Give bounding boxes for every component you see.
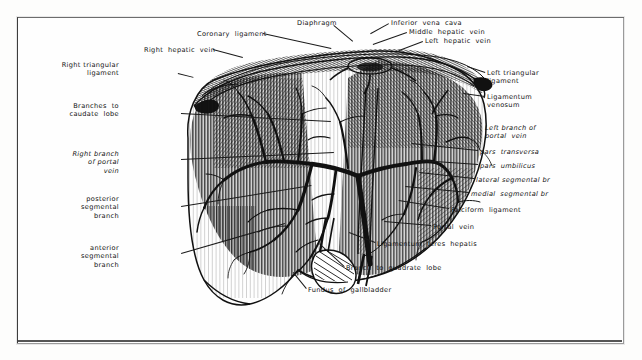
figure-page: Coronary ligamentDiaphragmInferior vena …	[0, 0, 642, 360]
label-left-hepatic-vein: Left hepatic vein	[425, 37, 491, 45]
label-medial-segmental-br: medial segmental br	[471, 190, 548, 198]
label-pars-umbilicus: pars umbilicus	[480, 162, 535, 170]
label-left-triangular-ligament: Left triangular ligament	[487, 69, 539, 86]
label-posterior-segmental-branch: posterior segmental branch	[81, 195, 119, 220]
label-middle-hepatic-vein: Middle hepatic vein	[409, 28, 485, 36]
label-coronary-ligament: Coronary ligament	[197, 30, 267, 38]
illustration-plate: Coronary ligamentDiaphragmInferior vena …	[17, 17, 624, 344]
label-ligamentum-venosum: Ligamentum venosum	[487, 93, 532, 110]
label-right-hepatic-vein: Right hepatic vein	[144, 46, 215, 54]
label-ligamentum-teres-hepatis: Ligamentum teres hepatis	[377, 240, 477, 248]
label-left-branch-of-portal-vein: Left branch of portal vein	[485, 124, 536, 141]
label-inferior-vena-cava: Inferior vena cava	[391, 19, 462, 27]
label-lateral-segmental-br: lateral segmental br	[476, 176, 550, 184]
label-fundus-of-gallbladder: Fundus of gallbladder	[308, 286, 391, 294]
label-pars-transversa: pars transversa	[480, 148, 539, 156]
label-right-triangular-ligament: Right triangular ligament	[62, 61, 119, 78]
label-anterior-segmental-branch: anterior segmental branch	[81, 244, 119, 269]
label-right-branch-of-portal-vein: Right branch of portal vein	[72, 150, 119, 175]
label-falciform-ligament: Falciform ligament	[451, 206, 521, 214]
label-portal-vein: Portal vein	[433, 223, 474, 231]
label-branches-to-caudate-lobe: Branches to caudate lobe	[69, 102, 119, 119]
label-diaphragm: Diaphragm	[297, 19, 337, 27]
label-branch-to-quadrate-lobe: Branch to quadrate lobe	[346, 264, 442, 272]
